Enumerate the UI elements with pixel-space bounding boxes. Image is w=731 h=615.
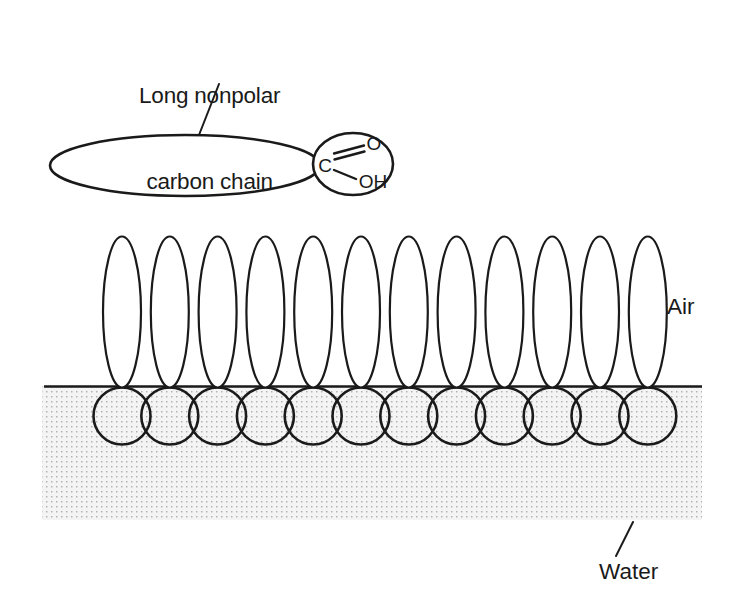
molecule-tail <box>629 237 667 388</box>
molecule-tail <box>199 237 237 388</box>
molecule-tail <box>294 237 332 388</box>
molecule-tail <box>103 237 141 388</box>
chain-label: Long nonpolar carbon chain <box>139 24 280 254</box>
molecule-tail <box>485 237 523 388</box>
water-region <box>42 386 702 520</box>
atom-label-oxygen: O <box>367 133 382 154</box>
nonpolar-tail-group <box>103 237 667 388</box>
chain-label-line1: Long nonpolar <box>139 82 280 111</box>
molecule-tail <box>533 237 571 388</box>
water-fill <box>42 386 702 520</box>
atom-label-carbon: C <box>318 155 332 176</box>
figure-canvas: C O OH Long nonpolar carbon chain Air Wa… <box>0 0 731 615</box>
molecule-tail <box>151 237 189 388</box>
monolayer-diagram: C O OH <box>0 0 731 615</box>
air-label: Air <box>667 293 695 322</box>
molecule-tail <box>390 237 428 388</box>
molecule-tail <box>342 237 380 388</box>
atom-label-hydroxyl: OH <box>359 171 388 192</box>
water-label-leader-line <box>616 522 633 556</box>
molecule-tail <box>581 237 619 388</box>
chain-label-line2: carbon chain <box>139 168 280 197</box>
molecule-tail <box>438 237 476 388</box>
molecule-tail <box>246 237 284 388</box>
water-label: Water <box>599 558 658 587</box>
